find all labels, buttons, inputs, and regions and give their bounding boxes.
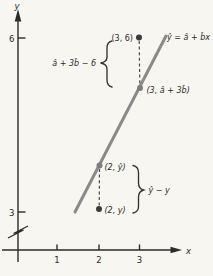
upper-brace <box>101 41 113 87</box>
point-3-6 <box>136 35 142 41</box>
x-axis-arrowhead-icon <box>171 247 183 254</box>
upper-residual: (3, 6) (3, â + 3b̂) â + 3b̂ − 6 <box>52 34 190 95</box>
regression-line-label: ŷ = â + b̂x <box>166 32 210 42</box>
y-axis-label: y <box>13 1 20 11</box>
y-tick-label-3: 3 <box>9 208 14 218</box>
x-tick-label-2: 2 <box>96 255 101 265</box>
point-2-observed-label: (2, y) <box>105 206 126 215</box>
point-2-observed <box>96 206 102 212</box>
lower-brace-label: ŷ − y <box>148 186 171 195</box>
regression-residuals-figure: y 6 3 x 1 2 3 ŷ = â + b̂x (3, 6) <box>0 0 213 276</box>
upper-brace-label: â + 3b̂ − 6 <box>52 58 96 68</box>
upper-dashed-segment <box>139 41 140 84</box>
lower-brace <box>133 166 144 214</box>
point-2-fitted <box>97 163 103 169</box>
y-tick-label-6: 6 <box>9 34 14 44</box>
lower-residual: (2, ŷ) (2, y) ŷ − y <box>96 163 170 216</box>
x-axis-label: x <box>185 246 192 256</box>
x-axis: x 1 2 3 <box>2 245 192 266</box>
plot-svg: y 6 3 x 1 2 3 ŷ = â + b̂x (3, 6) <box>0 0 213 276</box>
x-tick-label-1: 1 <box>54 255 59 265</box>
point-3-6-label: (3, 6) <box>111 34 133 43</box>
y-axis: y 6 3 <box>8 1 28 262</box>
point-3-fitted <box>137 85 143 91</box>
point-2-fitted-label: (2, ŷ) <box>105 163 126 172</box>
x-tick-label-3: 3 <box>137 255 142 265</box>
point-3-fitted-label: (3, â + 3b̂) <box>147 85 190 95</box>
